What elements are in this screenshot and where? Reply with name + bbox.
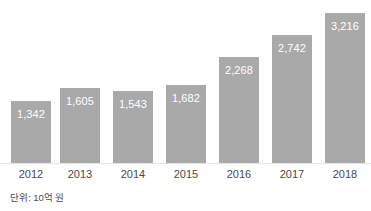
bar-group-2017: 2,742	[272, 0, 312, 163]
bar-2013[interactable]: 1,605	[60, 88, 100, 163]
bar-value-label: 3,216	[325, 20, 365, 32]
bar-2016[interactable]: 2,268	[219, 57, 259, 163]
bar-2012[interactable]: 1,342	[11, 101, 51, 163]
bar-value-label: 1,342	[11, 108, 51, 120]
bar-group-2015: 1,682	[166, 0, 206, 163]
bar-group-2013: 1,605	[60, 0, 100, 163]
bar-2014[interactable]: 1,543	[113, 91, 153, 163]
bar-2017[interactable]: 2,742	[272, 35, 312, 163]
category-axis: 2012 2013 2014 2015 2016 2017 2018	[0, 167, 371, 183]
category-label-2015: 2015	[166, 167, 206, 181]
bar-value-label: 2,268	[219, 64, 259, 76]
bar-value-label: 2,742	[272, 42, 312, 54]
category-label-2018: 2018	[325, 167, 365, 181]
bar-group-2016: 2,268	[219, 0, 259, 163]
plot-area: 1,342 1,605 1,543 1,682 2,268 2,742	[0, 0, 371, 163]
bar-group-2014: 1,543	[113, 0, 153, 163]
category-label-2017: 2017	[272, 167, 312, 181]
category-label-2012: 2012	[11, 167, 51, 181]
category-label-2013: 2013	[60, 167, 100, 181]
axis-baseline	[0, 163, 371, 164]
bar-2015[interactable]: 1,682	[166, 85, 206, 163]
bar-value-label: 1,605	[60, 95, 100, 107]
category-label-2014: 2014	[113, 167, 153, 181]
category-label-2016: 2016	[219, 167, 259, 181]
bar-value-label: 1,682	[166, 92, 206, 104]
bar-chart-figure: 1,342 1,605 1,543 1,682 2,268 2,742	[0, 0, 371, 211]
bar-group-2018: 3,216	[325, 0, 365, 163]
bar-group-2012: 1,342	[11, 0, 51, 163]
unit-caption: 단위: 10억 원	[10, 192, 65, 204]
bar-2018[interactable]: 3,216	[325, 13, 365, 163]
bar-value-label: 1,543	[113, 98, 153, 110]
